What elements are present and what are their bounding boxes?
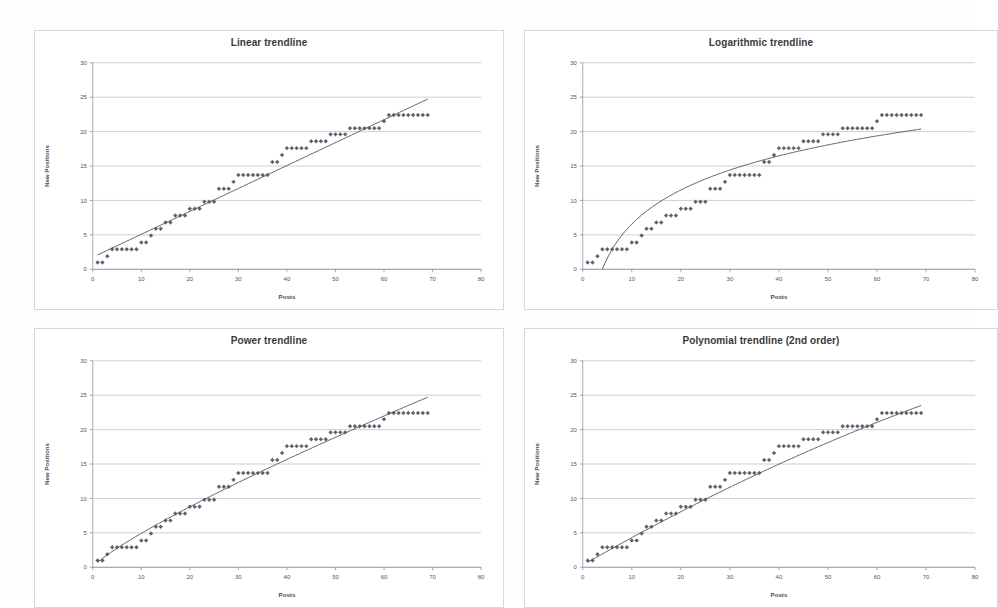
data-point-marker (343, 132, 347, 136)
data-point-marker (256, 471, 260, 475)
data-point-marker (149, 532, 153, 536)
x-tick-label: 80 (478, 276, 485, 282)
data-point-marker (401, 113, 405, 117)
x-tick-label: 60 (874, 276, 881, 282)
data-point-marker (338, 132, 342, 136)
data-point-marker (625, 247, 629, 251)
y-tick-label: 5 (573, 232, 577, 238)
data-point-marker (826, 430, 830, 434)
data-point-marker (397, 411, 401, 415)
x-tick-label: 30 (235, 574, 242, 580)
data-point-marker (280, 153, 284, 157)
x-tick-label: 70 (429, 574, 436, 580)
data-point-marker (664, 214, 668, 218)
chart-panel-linear: Linear trendline 05101520253001020304050… (34, 30, 504, 310)
data-point-marker (620, 545, 624, 549)
chart-canvas-linear: 05101520253001020304050607080PostsNew Po… (35, 31, 503, 309)
data-point-marker (762, 458, 766, 462)
data-point-marker (752, 173, 756, 177)
data-point-marker (841, 424, 845, 428)
data-point-marker (324, 139, 328, 143)
data-point-marker (708, 187, 712, 191)
data-point-marker (738, 173, 742, 177)
y-tick-label: 10 (570, 198, 577, 204)
data-point-marker (125, 247, 129, 251)
data-point-marker (348, 126, 352, 130)
chart-panel-logarithmic: Logarithmic trendline 051015202530010203… (524, 30, 998, 310)
data-point-marker (285, 444, 289, 448)
data-point-marker (757, 173, 761, 177)
data-point-marker (367, 424, 371, 428)
data-point-marker (392, 113, 396, 117)
data-point-marker (679, 207, 683, 211)
y-axis-title: New Positions (533, 442, 540, 485)
data-point-marker (909, 113, 913, 117)
y-tick-label: 15 (570, 163, 577, 169)
data-point-marker (723, 180, 727, 184)
data-point-marker (880, 411, 884, 415)
data-point-marker (689, 207, 693, 211)
data-point-marker (733, 173, 737, 177)
data-point-marker (304, 444, 308, 448)
data-point-marker (600, 247, 604, 251)
data-point-marker (372, 126, 376, 130)
data-point-marker (865, 424, 869, 428)
data-point-marker (280, 451, 284, 455)
data-point-marker (314, 437, 318, 441)
data-point-marker (605, 247, 609, 251)
data-point-marker (689, 505, 693, 509)
y-tick-label: 0 (83, 266, 87, 272)
y-axis-title: New Positions (43, 442, 50, 485)
chart-canvas-power: 05101520253001020304050607080PostsNew Po… (35, 329, 503, 607)
data-point-marker (227, 187, 231, 191)
x-tick-label: 30 (235, 276, 242, 282)
data-point-marker (875, 119, 879, 123)
data-point-marker (831, 132, 835, 136)
data-point-marker (246, 173, 250, 177)
data-point-marker (640, 532, 644, 536)
data-point-marker (299, 444, 303, 448)
y-axis-title: New Positions (43, 144, 50, 187)
data-point-marker (183, 512, 187, 516)
data-point-marker (329, 430, 333, 434)
data-point-marker (664, 512, 668, 516)
plot-area: 05101520253001020304050607080 (80, 358, 485, 580)
y-tick-label: 20 (570, 129, 577, 135)
data-point-marker (290, 444, 294, 448)
data-point-marker (630, 538, 634, 542)
y-tick-label: 20 (570, 427, 577, 433)
y-tick-label: 25 (80, 392, 87, 398)
data-point-marker (236, 471, 240, 475)
x-tick-label: 40 (776, 574, 783, 580)
data-point-marker (159, 525, 163, 529)
data-point-marker (718, 187, 722, 191)
data-point-marker (270, 458, 274, 462)
x-tick-label: 60 (381, 276, 388, 282)
data-point-marker (426, 411, 430, 415)
data-point-marker (816, 437, 820, 441)
y-tick-label: 15 (80, 163, 87, 169)
data-point-marker (821, 132, 825, 136)
data-point-marker (870, 126, 874, 130)
y-tick-label: 25 (570, 392, 577, 398)
data-point-marker (333, 132, 337, 136)
data-point-marker (801, 139, 805, 143)
trendline-power (98, 397, 428, 562)
data-point-marker (777, 444, 781, 448)
data-point-marker (406, 113, 410, 117)
x-tick-label: 60 (381, 574, 388, 580)
data-point-marker (130, 545, 134, 549)
data-point-marker (168, 518, 172, 522)
plot-area: 05101520253001020304050607080 (570, 60, 979, 282)
data-point-marker (821, 430, 825, 434)
data-point-marker (797, 444, 801, 448)
data-point-marker (782, 444, 786, 448)
x-tick-label: 20 (187, 276, 194, 282)
data-point-marker (757, 471, 761, 475)
y-tick-label: 10 (570, 496, 577, 502)
data-point-marker (382, 417, 386, 421)
y-tick-label: 0 (83, 564, 87, 570)
data-point-marker (792, 146, 796, 150)
data-point-marker (134, 545, 138, 549)
